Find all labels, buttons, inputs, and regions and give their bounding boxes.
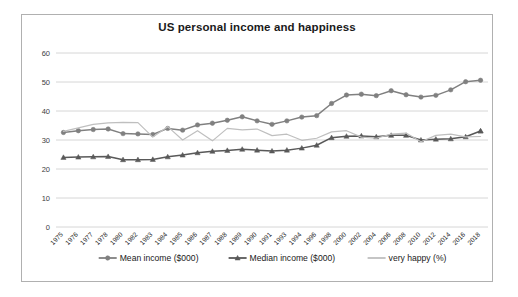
- data-point-marker: [91, 127, 95, 131]
- x-axis-tick-labels: 1975197619771978198019821983198419851986…: [49, 231, 482, 247]
- legend-label: very happy (%): [389, 253, 447, 263]
- data-point-marker: [225, 118, 229, 122]
- x-axis-tick-label: 1993: [272, 231, 288, 247]
- data-point-marker: [434, 93, 438, 97]
- y-axis-tick-label: 10: [42, 194, 50, 203]
- x-axis-tick-label: 1977: [79, 231, 95, 247]
- data-point-marker: [329, 101, 333, 105]
- line-chart: 0102030405060 19751976197719781980198219…: [22, 15, 494, 281]
- y-axis-tick-label: 0: [46, 223, 50, 232]
- x-axis-tick-label: 2010: [406, 231, 422, 247]
- x-axis-tick-label: 2006: [377, 231, 393, 247]
- data-point-marker: [76, 129, 80, 133]
- x-axis-tick-label: 1983: [138, 231, 154, 247]
- data-point-marker: [359, 92, 363, 96]
- data-point-marker: [240, 115, 244, 119]
- data-point-marker: [106, 127, 110, 131]
- chart-legend: Mean income ($000)Median income ($000)ve…: [99, 253, 447, 263]
- x-axis-tick-label: 2000: [332, 231, 348, 247]
- x-axis-tick-label: 1998: [317, 231, 333, 247]
- x-axis-tick-label: 1989: [228, 231, 244, 247]
- annotation-markers: [478, 128, 483, 133]
- data-point-marker: [136, 132, 140, 136]
- x-axis-tick-label: 2016: [451, 231, 467, 247]
- y-axis-tick-label: 20: [42, 165, 50, 174]
- data-point-marker: [195, 123, 199, 127]
- x-axis-tick-label: 1978: [94, 231, 110, 247]
- data-point-marker: [121, 131, 125, 135]
- x-axis-tick-label: 1990: [242, 231, 258, 247]
- x-axis-tick-label: 1985: [168, 231, 184, 247]
- x-axis-tick-label: 1996: [302, 231, 318, 247]
- data-point-marker: [449, 88, 453, 92]
- x-axis-tick-label: 2014: [436, 231, 452, 247]
- y-axis-tick-label: 50: [42, 78, 50, 87]
- data-point-marker: [210, 121, 214, 125]
- y-axis-tick-label: 60: [42, 49, 50, 58]
- data-point-marker: [478, 78, 482, 82]
- x-axis-tick-label: 2018: [466, 231, 482, 247]
- x-axis-tick-label: 2002: [347, 231, 363, 247]
- x-axis-tick-label: 1988: [213, 231, 229, 247]
- x-axis-tick-label: 1982: [123, 231, 139, 247]
- data-point-marker: [463, 80, 467, 84]
- data-point-marker: [300, 115, 304, 119]
- data-point-marker: [180, 128, 184, 132]
- y-axis-tick-labels: 0102030405060: [42, 49, 50, 232]
- y-axis-tick-label: 40: [42, 107, 50, 116]
- x-axis-tick-label: 1976: [64, 231, 80, 247]
- legend-label: Mean income ($000): [120, 253, 199, 263]
- data-point-marker: [404, 93, 408, 97]
- x-axis-tick-label: 1984: [153, 231, 169, 247]
- x-axis-tick-label: 2012: [421, 231, 437, 247]
- legend-item-3[interactable]: very happy (%): [368, 253, 447, 263]
- data-point-marker: [285, 119, 289, 123]
- data-point-marker: [270, 122, 274, 126]
- x-axis-tick-label: 1987: [198, 231, 214, 247]
- legend-label: Median income ($000): [250, 253, 336, 263]
- data-point-marker: [419, 95, 423, 99]
- x-axis-tick-label: 1986: [183, 231, 199, 247]
- data-point-marker: [314, 113, 318, 117]
- legend-item-1[interactable]: Mean income ($000): [99, 253, 199, 263]
- y-axis-tick-label: 30: [42, 136, 50, 145]
- x-axis-tick-label: 2008: [391, 231, 407, 247]
- x-axis-tick-label: 1980: [108, 231, 124, 247]
- legend-item-2[interactable]: Median income ($000): [229, 253, 336, 263]
- x-axis-tick-label: 2004: [362, 231, 378, 247]
- chart-frame: US personal income and happiness 0102030…: [21, 14, 493, 282]
- data-point-marker: [478, 128, 483, 133]
- x-axis-tick-label: 1991: [257, 231, 273, 247]
- data-point-marker: [344, 93, 348, 97]
- data-series-group: [61, 78, 483, 162]
- data-point-marker: [255, 119, 259, 123]
- data-point-marker: [374, 93, 378, 97]
- series-1: [61, 78, 483, 137]
- data-point-marker: [389, 89, 393, 93]
- x-axis-tick-label: 1994: [287, 231, 303, 247]
- x-axis-tick-label: 1975: [49, 231, 65, 247]
- data-point-marker: [106, 256, 110, 260]
